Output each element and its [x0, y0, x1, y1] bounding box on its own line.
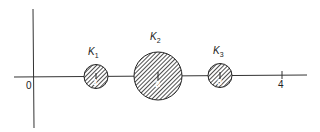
y-axis — [33, 9, 34, 128]
point-label-2: 2 — [155, 79, 160, 89]
point-label-1: 1 — [93, 77, 98, 87]
point-label-3: 3 — [217, 77, 222, 87]
x-tick-label-4: 4 — [278, 79, 284, 90]
cluster-k1-label: K1 — [88, 46, 99, 59]
diagram-canvas — [0, 0, 320, 132]
cluster-k3-label: K3 — [213, 45, 224, 58]
origin-label: 0 — [26, 80, 32, 91]
cluster-k2-label: K2 — [150, 31, 161, 44]
